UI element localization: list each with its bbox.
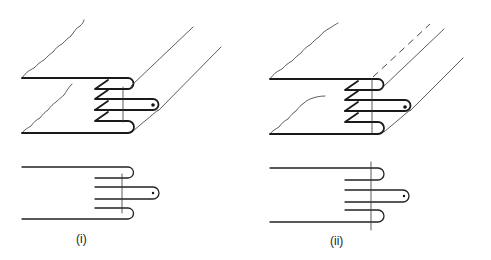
section-tab (345, 190, 409, 202)
panel-label-ii: (ii) (330, 234, 343, 248)
knuckle-3 (345, 102, 375, 122)
depth-line-top (382, 29, 444, 88)
knuckle-1 (345, 81, 375, 90)
depth-line-bottom (158, 47, 221, 111)
depth-line-bottom (410, 58, 463, 111)
knuckle-1 (95, 80, 125, 89)
section-top-plate (22, 167, 133, 178)
section-pin-icon (403, 195, 405, 197)
section-bottom-plate (270, 210, 384, 222)
knuckle-3 (95, 101, 125, 121)
panel-ii-isometric (270, 23, 463, 134)
section-bottom-plate (22, 208, 134, 219)
torn-edge-bottom (270, 96, 325, 134)
section-tab (95, 187, 159, 199)
pin-icon (403, 105, 407, 109)
pin-icon (151, 103, 155, 107)
panel-i-isometric (22, 20, 221, 133)
torn-edge-top (22, 20, 84, 78)
knuckle-tab (345, 91, 411, 111)
torn-edge-top (270, 23, 338, 79)
knuckle-tab (95, 90, 159, 110)
section-pin-icon (152, 192, 154, 194)
top-plate (270, 79, 383, 90)
depth-line-lower (133, 110, 158, 131)
depth-line-top (131, 27, 193, 86)
section-top-plate (270, 168, 384, 180)
hinge-diagram: (i) (ii) (0, 0, 491, 260)
panel-label-i: (i) (76, 232, 87, 246)
top-plate (22, 78, 133, 89)
depth-line-lower (384, 110, 410, 132)
bottom-plate (270, 122, 384, 134)
panel-i-section (22, 167, 159, 219)
bottom-plate (22, 121, 134, 133)
panel-ii-section (270, 162, 409, 230)
torn-edge-bottom (22, 84, 72, 133)
